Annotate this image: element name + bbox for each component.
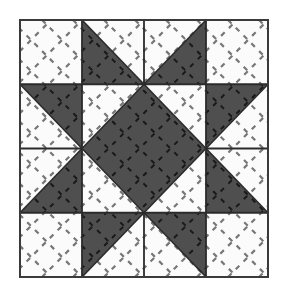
quilt-block-figure — [0, 0, 283, 290]
quilt-block-canvas — [0, 0, 283, 290]
